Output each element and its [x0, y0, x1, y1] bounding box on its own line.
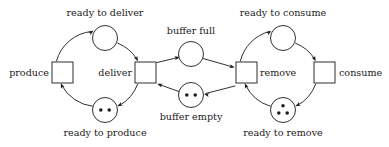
transition-square[interactable]: [135, 62, 156, 83]
arc-buffer-full-to-remove: [203, 58, 236, 69]
place-label-buffer-full: buffer full: [167, 25, 215, 36]
arc-ready-to-consume-to-consume: [296, 43, 318, 62]
arrow-head-icon: [134, 56, 140, 62]
place-ready-to-consume[interactable]: [271, 26, 296, 51]
transition-remove[interactable]: [236, 62, 257, 83]
arc-ready-to-remove-to-remove: [243, 83, 270, 107]
token-dot: [99, 108, 103, 112]
token-dot: [285, 111, 289, 115]
place-circle[interactable]: [93, 98, 118, 123]
place-label-ready-to-consume: ready to consume: [240, 7, 327, 18]
place-circle[interactable]: [271, 26, 296, 51]
token-dot: [107, 108, 111, 112]
transition-label-consume: consume: [339, 67, 383, 78]
arc-buffer-empty-to-deliver: [157, 82, 179, 92]
token-dot: [193, 93, 197, 97]
place-label-buffer-empty: buffer empty: [160, 111, 223, 122]
arc-consume-to-ready-to-remove: [294, 84, 315, 108]
transition-label-deliver: deliver: [98, 67, 132, 78]
place-label-ready-to-remove: ready to remove: [243, 127, 323, 138]
token-dot: [277, 111, 281, 115]
place-ready-to-deliver[interactable]: [93, 26, 118, 51]
arrow-head-icon: [312, 56, 318, 62]
arrow-head-icon: [243, 83, 249, 89]
place-buffer-full[interactable]: [179, 42, 204, 67]
arc-ready-to-produce-to-produce: [59, 83, 92, 107]
transition-square[interactable]: [52, 62, 73, 83]
arc-deliver-to-ready-to-produce: [116, 84, 137, 108]
transition-square[interactable]: [236, 62, 257, 83]
place-circle[interactable]: [271, 98, 296, 123]
arrow-head-icon: [157, 82, 163, 88]
place-label-ready-to-deliver: ready to deliver: [67, 7, 144, 18]
arc-remove-to-ready-to-consume: [240, 29, 272, 61]
arc-deliver-to-buffer-full: [157, 55, 180, 62]
place-ready-to-remove[interactable]: [271, 98, 296, 123]
transition-label-remove: remove: [260, 67, 297, 78]
transition-consume[interactable]: [314, 62, 335, 83]
place-circle[interactable]: [93, 26, 118, 51]
place-ready-to-produce[interactable]: [93, 98, 118, 123]
place-label-ready-to-produce: ready to produce: [63, 127, 146, 138]
token-dot: [185, 93, 189, 97]
transition-deliver[interactable]: [135, 62, 156, 83]
transition-produce[interactable]: [52, 62, 73, 83]
petri-net-canvas: producedeliverremoveconsumeready to deli…: [0, 0, 389, 147]
transition-label-produce: produce: [9, 67, 49, 78]
place-buffer-empty[interactable]: [179, 83, 204, 108]
petri-net-diagram: producedeliverremoveconsumeready to deli…: [0, 0, 389, 147]
arrow-head-icon: [229, 64, 235, 69]
arc-remove-to-buffer-empty: [204, 86, 235, 97]
arc-ready-to-deliver-to-deliver: [118, 43, 140, 62]
token-dot: [281, 104, 285, 108]
transition-square[interactable]: [314, 62, 335, 83]
arrow-head-icon: [59, 83, 65, 89]
place-circle[interactable]: [179, 83, 204, 108]
place-circle[interactable]: [179, 42, 204, 67]
arc-produce-to-ready-to-deliver: [57, 29, 95, 61]
